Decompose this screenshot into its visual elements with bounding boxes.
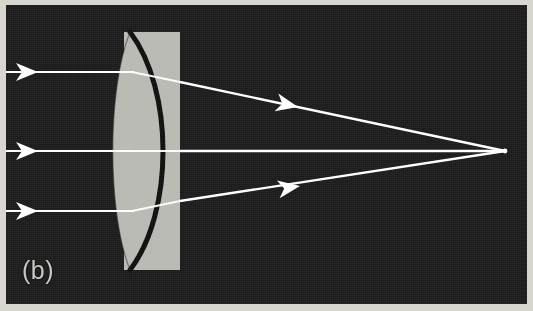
refracted-rays-group (180, 82, 505, 201)
incoming-arrowheads-group (16, 63, 38, 220)
arrow-icon-ray-bottom-out (277, 177, 301, 198)
ray-top-refracted (180, 82, 505, 151)
figure-page: (b) (0, 0, 533, 311)
ray-diagram (6, 5, 527, 304)
panel-label: (b) (22, 258, 54, 283)
focal-point (503, 149, 508, 154)
ray-bottom-refracted (180, 151, 505, 201)
arrow-icon-ray-top-out (275, 94, 300, 116)
figure-frame: (b) (6, 5, 527, 304)
